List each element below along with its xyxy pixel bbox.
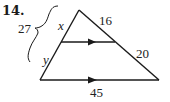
lower-right-label: 20 xyxy=(136,46,149,61)
right-side xyxy=(79,10,159,80)
problem-number: 14. xyxy=(2,3,25,18)
base-label: 45 xyxy=(90,85,103,100)
triangle-diagram: 14. 27 x y 16 20 45 xyxy=(0,0,170,102)
parallel-arrow-icon xyxy=(88,39,96,46)
brace-total-label: 27 xyxy=(18,21,32,36)
x-label: x xyxy=(57,18,64,33)
parallel-arrow-icon xyxy=(88,77,97,84)
y-label: y xyxy=(41,52,49,67)
upper-right-label: 16 xyxy=(99,13,113,28)
